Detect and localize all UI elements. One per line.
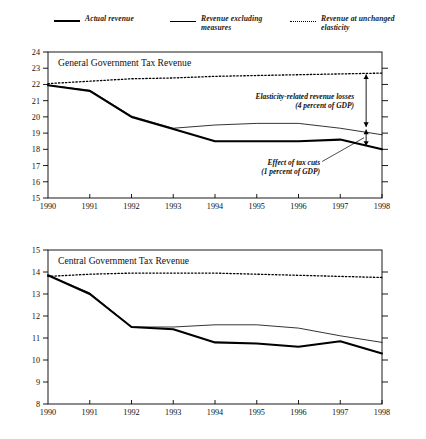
annotation-elasticity-losses: Elasticity-related revenue losses: [254, 92, 354, 101]
x-axis-tick-label: 1992: [123, 408, 139, 417]
y-axis-tick-label: 10: [32, 356, 40, 365]
y-axis-tick-label: 13: [32, 290, 40, 299]
y-axis-tick-label: 14: [32, 268, 40, 277]
chart-title: Central Government Tax Revenue: [58, 255, 189, 266]
x-axis-tick-label: 1993: [165, 408, 181, 417]
y-axis-tick-label: 15: [32, 246, 40, 255]
y-axis-tick-label: 22: [32, 80, 40, 89]
legend-label-revenue-unchanged-elasticity: Revenue at unchanged elasticity: [321, 14, 395, 32]
x-axis-tick-label: 1991: [82, 408, 98, 417]
x-axis-tick-label: 1998: [374, 202, 390, 211]
series-line: [48, 275, 382, 353]
y-axis-tick-label: 17: [32, 162, 40, 171]
y-axis-tick-label: 9: [36, 378, 40, 387]
central-government-tax-revenue-chart: 8910111213141519901991199219931994199519…: [0, 244, 426, 439]
y-axis-tick-label: 15: [32, 194, 40, 203]
series-line: [48, 73, 382, 84]
annotation-arrow: [364, 74, 369, 127]
legend-swatch-dotted-icon: [290, 16, 316, 26]
y-axis-tick-label: 11: [32, 334, 40, 343]
series-line: [48, 273, 382, 277]
x-axis-tick-label: 1992: [123, 202, 139, 211]
annotation-tax-cuts: (1 percent of GDP): [261, 167, 320, 176]
plot-frame: [48, 250, 382, 404]
annotation-tax-cuts: Effect of tax cuts: [267, 158, 321, 167]
figure-container: Actual revenue Revenue excluding measure…: [0, 0, 426, 439]
legend-swatch-thick-solid-icon: [54, 16, 80, 26]
annotation-elasticity-losses: (4 percent of GDP): [295, 101, 354, 110]
legend-swatch-thin-solid-icon: [170, 16, 196, 26]
chart-title: General Government Tax Revenue: [58, 57, 191, 68]
x-axis-tick-label: 1995: [249, 202, 265, 211]
x-axis-tick-label: 1990: [40, 202, 56, 211]
x-axis-tick-label: 1997: [332, 408, 348, 417]
general-government-tax-revenue-chart: 1516171819202122232419901991199219931994…: [0, 46, 426, 236]
y-axis-tick-label: 16: [32, 178, 40, 187]
y-axis-tick-label: 21: [32, 97, 40, 106]
chart-panel-central-government: 8910111213141519901991199219931994199519…: [0, 244, 426, 439]
legend-label-revenue-excluding-measures: Revenue excluding measures: [201, 14, 262, 32]
legend-item-revenue-unchanged-elasticity: Revenue at unchanged elasticity: [290, 14, 395, 32]
x-axis-tick-label: 1993: [165, 202, 181, 211]
x-axis-tick-label: 1991: [82, 202, 98, 211]
x-axis-tick-label: 1996: [290, 408, 306, 417]
y-axis-tick-label: 24: [32, 48, 40, 57]
x-axis-tick-label: 1998: [374, 408, 390, 417]
x-axis-tick-label: 1995: [249, 408, 265, 417]
legend-item-revenue-excluding-measures: Revenue excluding measures: [170, 14, 262, 32]
y-axis-tick-label: 18: [32, 145, 40, 154]
y-axis-tick-label: 19: [32, 129, 40, 138]
x-axis-tick-label: 1994: [207, 408, 223, 417]
chart-legend: Actual revenue Revenue excluding measure…: [0, 14, 426, 46]
legend-label-actual-revenue: Actual revenue: [85, 14, 134, 23]
chart-panel-general-government: 1516171819202122232419901991199219931994…: [0, 46, 426, 236]
x-axis-tick-label: 1990: [40, 408, 56, 417]
x-axis-tick-label: 1994: [207, 202, 223, 211]
y-axis-tick-label: 23: [32, 64, 40, 73]
legend-item-actual-revenue: Actual revenue: [54, 14, 134, 26]
y-axis-tick-label: 12: [32, 312, 40, 321]
series-line: [48, 275, 382, 342]
x-axis-tick-label: 1996: [290, 202, 306, 211]
y-axis-tick-label: 20: [32, 113, 40, 122]
x-axis-tick-label: 1997: [332, 202, 348, 211]
